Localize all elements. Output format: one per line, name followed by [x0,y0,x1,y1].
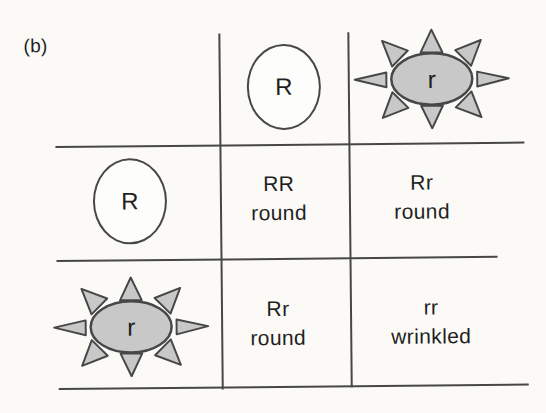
allele-letter: r [127,314,135,341]
offspring-cell-rr-2: Rr round [357,167,488,226]
allele-letter: r [428,66,436,93]
offspring-cell-rr-4: rr wrinkled [366,292,497,351]
phenotype-text: round [214,197,344,227]
grid-line-horizontal-2 [57,256,498,262]
offspring-cell-rr-1: RR round [214,168,345,227]
punnett-square-figure: (b) R r R r RR round [0,0,546,413]
grid-line-horizontal-1 [55,142,524,149]
genotype-text: rr [366,292,496,322]
offspring-cell-rr-3: Rr round [213,293,344,352]
phenotype-text: round [213,322,343,352]
genotype-text: Rr [357,167,487,197]
phenotype-text: round [357,196,487,226]
genotype-text: Rr [213,293,343,323]
genotype-text: RR [214,168,344,198]
phenotype-text: wrinkled [366,321,496,351]
seed-ray-left-icon [54,320,86,335]
seed-ray-bottom-icon [121,353,143,376]
seed-ray-top-icon [120,277,142,300]
grid-line-horizontal-3 [59,384,529,391]
allele-letter: R [121,187,139,215]
seed-ray-left-icon [355,72,387,87]
wrinkled-seed-shape: r [352,28,511,131]
round-seed-shape: R [246,44,321,131]
allele-letter: R [275,73,293,101]
wrinkled-seed-shape: r [52,276,211,379]
seed-ray-right-icon [177,319,209,334]
seed-ray-right-icon [477,71,509,86]
seed-ray-bottom-icon [421,106,443,129]
seed-ray-top-icon [420,29,442,52]
figure-label: (b) [23,35,47,57]
round-seed-shape: R [93,158,168,245]
